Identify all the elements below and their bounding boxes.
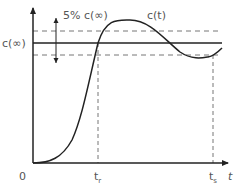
x-axis-label: t xyxy=(228,171,232,182)
rise-time-sub: r xyxy=(98,177,101,185)
settling-time-label: ts xyxy=(209,171,217,185)
step-response-diagram: 5% c(∞) c(t) c(∞) 0 tr ts t xyxy=(0,0,241,185)
tolerance-label: 5% c(∞) xyxy=(63,10,108,21)
rise-time-label: tr xyxy=(94,171,101,185)
settling-time-sub: s xyxy=(213,177,217,185)
steady-state-label: c(∞) xyxy=(2,38,26,49)
origin-label: 0 xyxy=(19,171,26,182)
response-curve xyxy=(33,20,222,163)
diagram-canvas xyxy=(0,0,241,185)
curve-label: c(t) xyxy=(147,10,166,21)
